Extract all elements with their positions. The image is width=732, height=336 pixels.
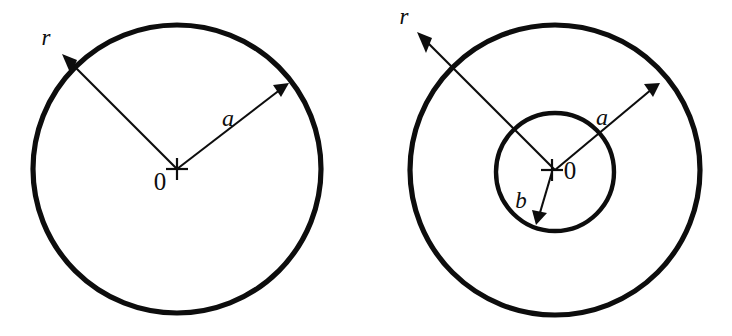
right-origin-label: 0 (564, 157, 577, 184)
left-radius-label-a: a (222, 105, 234, 131)
right-outer-radius-label-a: a (596, 104, 608, 130)
right-inner-radius-label-b: b (515, 188, 527, 213)
left-radial-label-r: r (42, 25, 52, 50)
diagram-background (0, 0, 732, 336)
right-radial-label-r: r (400, 4, 410, 29)
left-origin-label: 0 (154, 168, 167, 195)
circular-cross-section-diagram: 0 r a 0 r a b (0, 0, 732, 336)
